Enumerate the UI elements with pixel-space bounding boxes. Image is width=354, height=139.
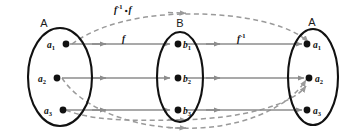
dot-domain-a3	[60, 107, 67, 114]
element-label-range-a2: a2	[315, 74, 323, 85]
set-label-domain-a: A	[40, 17, 48, 29]
dot-range-a3	[304, 107, 311, 114]
composition-curve-a1	[72, 14, 308, 44]
dot-domain-a2	[54, 75, 61, 82]
element-label-range-a3: a3	[313, 106, 322, 117]
diagram-canvas: A B A a1 a2 a3 b1 b2 b3	[0, 0, 354, 139]
element-label-range-a1: a1	[313, 40, 321, 51]
dot-range-a2	[306, 75, 313, 82]
dot-codomain-b3	[175, 107, 182, 114]
dot-range-a1	[304, 41, 311, 48]
element-labels-range-a: a1 a2 a3	[313, 40, 323, 117]
mapping-label-f-inverse-compose-f: f-1∘f	[114, 3, 133, 15]
f-arrows-group	[62, 44, 170, 110]
dot-codomain-b1	[175, 41, 182, 48]
element-label-domain-a3: a3	[44, 106, 53, 117]
element-label-codomain-b2: b2	[183, 74, 191, 85]
dot-codomain-b2	[175, 75, 182, 82]
mapping-label-f-inverse: f-1	[237, 32, 246, 44]
element-labels-codomain-b: b1 b2 b3	[183, 40, 192, 117]
element-label-codomain-b3: b3	[183, 106, 192, 117]
function-composition-diagram: A B A a1 a2 a3 b1 b2 b3	[0, 0, 354, 139]
element-label-domain-a1: a1	[47, 40, 55, 51]
element-labels-domain-a: a1 a2 a3	[38, 40, 55, 117]
element-label-codomain-b1: b1	[183, 40, 191, 51]
mapping-label-f: f	[122, 34, 126, 44]
composition-curve-a1-midarrow	[168, 13, 186, 14]
dot-domain-a1	[63, 41, 70, 48]
set-label-codomain-b: B	[176, 17, 183, 29]
composition-curve-a2-midarrow	[168, 128, 186, 129]
set-label-range-a: A	[308, 16, 316, 28]
element-label-domain-a2: a2	[38, 74, 46, 85]
